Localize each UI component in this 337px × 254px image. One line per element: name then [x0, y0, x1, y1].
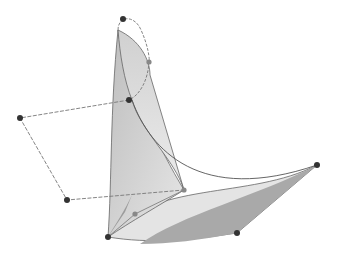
control-point-p4[interactable]	[64, 197, 70, 203]
control-point-p1[interactable]	[146, 59, 151, 64]
control-point-p8[interactable]	[314, 162, 320, 168]
control-point-p7[interactable]	[181, 187, 186, 192]
control-point-p9[interactable]	[234, 230, 240, 236]
control-point-p2[interactable]	[126, 97, 132, 103]
control-point-p6[interactable]	[132, 211, 137, 216]
control-point-p0[interactable]	[120, 16, 126, 22]
bezier-surface-diagram	[0, 0, 337, 254]
diagram-canvas	[0, 0, 337, 254]
control-point-p3[interactable]	[17, 115, 23, 121]
control-point-p5[interactable]	[105, 234, 111, 240]
